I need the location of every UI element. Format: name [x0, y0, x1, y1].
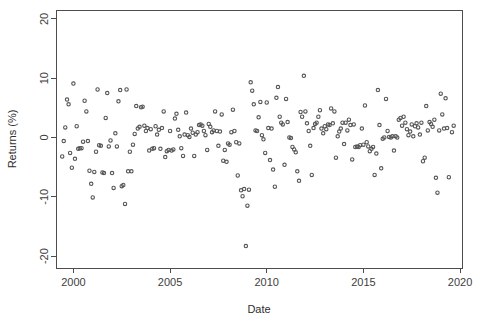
data-point — [433, 118, 436, 121]
data-point — [149, 128, 152, 131]
data-point — [441, 113, 444, 116]
x-axis: 20002005201020152020 — [61, 268, 472, 288]
data-point — [344, 121, 347, 124]
plot-frame — [56, 10, 462, 268]
y-tick-label: -10 — [38, 189, 50, 205]
data-point — [320, 127, 323, 130]
y-tick-label: 0 — [38, 134, 50, 140]
data-point — [297, 179, 300, 182]
data-point — [118, 88, 121, 91]
data-point — [65, 98, 68, 101]
data-point — [436, 191, 439, 194]
data-point — [251, 89, 254, 92]
data-point — [138, 125, 141, 128]
data-point — [93, 170, 96, 173]
data-point — [164, 155, 167, 158]
data-point — [117, 100, 120, 103]
data-point — [249, 81, 252, 84]
x-tick-label: 2015 — [351, 276, 375, 288]
data-point — [62, 139, 65, 142]
data-point — [360, 127, 363, 130]
data-point — [400, 124, 403, 127]
data-point — [175, 112, 178, 115]
data-point — [305, 122, 308, 125]
data-point — [83, 99, 86, 102]
data-point — [339, 127, 342, 130]
data-point — [416, 126, 419, 129]
data-point — [223, 148, 226, 151]
data-point — [91, 196, 94, 199]
data-point — [67, 103, 70, 106]
data-point — [225, 160, 228, 163]
data-point — [386, 129, 389, 132]
data-point — [202, 129, 205, 132]
data-point — [321, 132, 324, 135]
data-point — [431, 125, 434, 128]
data-point — [412, 135, 415, 138]
data-point — [342, 142, 345, 145]
data-point — [445, 126, 448, 129]
y-axis-title: Returns (%) — [6, 110, 18, 169]
data-point — [363, 104, 366, 107]
data-point — [407, 133, 410, 136]
data-point — [114, 132, 117, 135]
data-point — [262, 138, 265, 141]
data-point — [244, 244, 247, 247]
data-point — [154, 125, 157, 128]
data-point — [284, 97, 287, 100]
data-point — [329, 107, 332, 110]
data-point — [333, 110, 336, 113]
data-point — [81, 140, 84, 143]
data-point — [371, 145, 374, 148]
data-points-layer — [60, 74, 455, 248]
data-point — [160, 126, 163, 129]
data-point — [155, 133, 158, 136]
data-point — [309, 144, 312, 147]
data-point — [247, 188, 250, 191]
data-point — [130, 170, 133, 173]
data-point — [304, 110, 307, 113]
data-point — [125, 88, 128, 91]
data-point — [162, 110, 165, 113]
x-tick-label: 2010 — [254, 276, 278, 288]
data-point — [193, 154, 196, 157]
data-point — [209, 125, 212, 128]
data-point — [241, 195, 244, 198]
y-tick-label: 10 — [38, 72, 50, 84]
y-axis: 20100-10-20 — [38, 13, 56, 264]
y-tick-label: 20 — [38, 13, 50, 25]
data-point — [189, 127, 192, 130]
data-point — [135, 104, 138, 107]
data-point — [447, 176, 450, 179]
data-point — [452, 124, 455, 127]
data-point — [392, 149, 395, 152]
data-point — [107, 145, 110, 148]
data-point — [325, 128, 328, 131]
data-point — [437, 129, 440, 132]
data-point — [60, 155, 63, 158]
data-point — [73, 157, 76, 160]
data-point — [425, 104, 428, 107]
data-point — [405, 128, 408, 131]
plot-box-border — [56, 10, 462, 268]
data-point — [217, 144, 220, 147]
data-point — [336, 135, 339, 138]
data-point — [268, 158, 271, 161]
data-point — [310, 173, 313, 176]
data-point — [173, 117, 176, 120]
data-point — [402, 115, 405, 118]
data-point — [373, 173, 376, 176]
data-point — [334, 156, 337, 159]
data-point — [281, 123, 284, 126]
data-point — [218, 130, 221, 133]
data-point — [75, 125, 78, 128]
data-point — [86, 139, 89, 142]
data-point — [236, 174, 239, 177]
data-point — [307, 129, 310, 132]
data-point — [376, 88, 379, 91]
data-point — [96, 88, 99, 91]
data-point — [408, 130, 411, 133]
data-point — [112, 186, 115, 189]
data-point — [365, 141, 368, 144]
data-point — [104, 116, 107, 119]
